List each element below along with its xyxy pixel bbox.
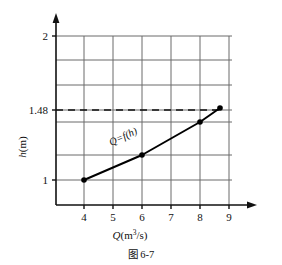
x-tick-label-5: 5 — [110, 211, 116, 223]
figure-container: 2 1.48 1 4 5 6 7 8 9 Q=f(h) h(m) Q(m3/s) — [0, 0, 282, 265]
x-tick-labels: 4 5 6 7 8 9 — [81, 211, 232, 223]
figure-caption: 图 6-7 — [128, 249, 155, 260]
x-tick-label-8: 8 — [197, 211, 203, 223]
x-tick-label-4: 4 — [81, 211, 87, 223]
data-point-2 — [197, 119, 203, 125]
y-axis-title-units: (m) — [16, 136, 29, 152]
chart-canvas: 2 1.48 1 4 5 6 7 8 9 Q=f(h) h(m) Q(m3/s) — [0, 0, 282, 265]
data-point-3 — [217, 105, 223, 111]
y-tick-label-2: 2 — [43, 30, 49, 42]
y-tick-label-1.48: 1.48 — [29, 104, 49, 116]
x-tick-label-9: 9 — [226, 211, 232, 223]
data-point-0 — [81, 177, 87, 183]
y-tick-labels: 2 1.48 1 — [29, 30, 49, 186]
data-point-1 — [139, 152, 145, 158]
x-axis-arrow-icon — [247, 202, 257, 209]
x-tick-label-7: 7 — [168, 211, 174, 223]
curve-label: Q=f(h) — [107, 125, 140, 149]
x-tick-label-6: 6 — [139, 211, 145, 223]
x-axis-title-var: Q — [113, 229, 121, 241]
x-axis-title-paren-open: (m — [120, 229, 133, 242]
y-axis-arrow-icon — [53, 13, 60, 23]
x-axis-title-paren-close: /s) — [136, 229, 147, 242]
x-axis-title: Q(m3/s) — [113, 228, 148, 242]
y-axis-title: h(m) — [16, 136, 29, 158]
y-tick-label-1: 1 — [43, 174, 49, 186]
